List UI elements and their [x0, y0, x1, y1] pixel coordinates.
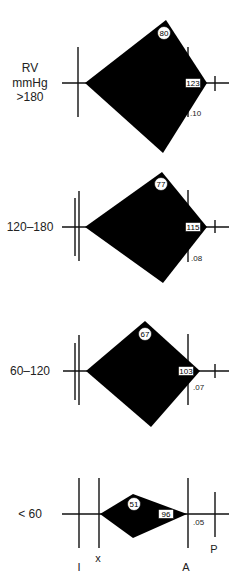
peak-value: 77: [157, 180, 166, 189]
group-label-line-1: RV: [22, 61, 38, 75]
axis-marker-p: P: [210, 543, 217, 555]
pressure-pulse-diagram: RV mmHg >180 80 123 .10 120–180 77 115 .…: [0, 0, 246, 577]
duration-label: .05: [193, 518, 205, 527]
end-value: 115: [187, 223, 200, 232]
end-value: 103: [179, 367, 193, 376]
group-label-line-3: >180: [16, 90, 43, 104]
group-label: 60–120: [10, 364, 50, 378]
axis-marker-i: I: [77, 561, 80, 573]
group-label: 120–180: [7, 220, 54, 234]
axis-marker-a: A: [182, 561, 190, 573]
peak-value: 51: [130, 500, 139, 509]
end-value: 96: [162, 510, 171, 519]
peak-value: 67: [141, 330, 150, 339]
duration-label: .08: [191, 254, 203, 263]
panel-under-60: < 60 51 96 .05 I x A P: [18, 478, 229, 573]
panel-120-180: 120–180 77 115 .08: [7, 172, 229, 283]
group-label-line-2: mmHg: [12, 76, 47, 90]
pressure-shape: [100, 494, 187, 538]
duration-label: .10: [190, 109, 202, 118]
panel-60-120: 60–120 67 103 .07: [10, 321, 229, 427]
panel-rv-over-180: RV mmHg >180 80 123 .10: [12, 20, 229, 153]
peak-value: 80: [160, 29, 169, 38]
end-value: 123: [186, 79, 200, 88]
axis-marker-x: x: [95, 552, 101, 564]
duration-label: .07: [193, 383, 205, 392]
group-label: < 60: [18, 507, 42, 521]
